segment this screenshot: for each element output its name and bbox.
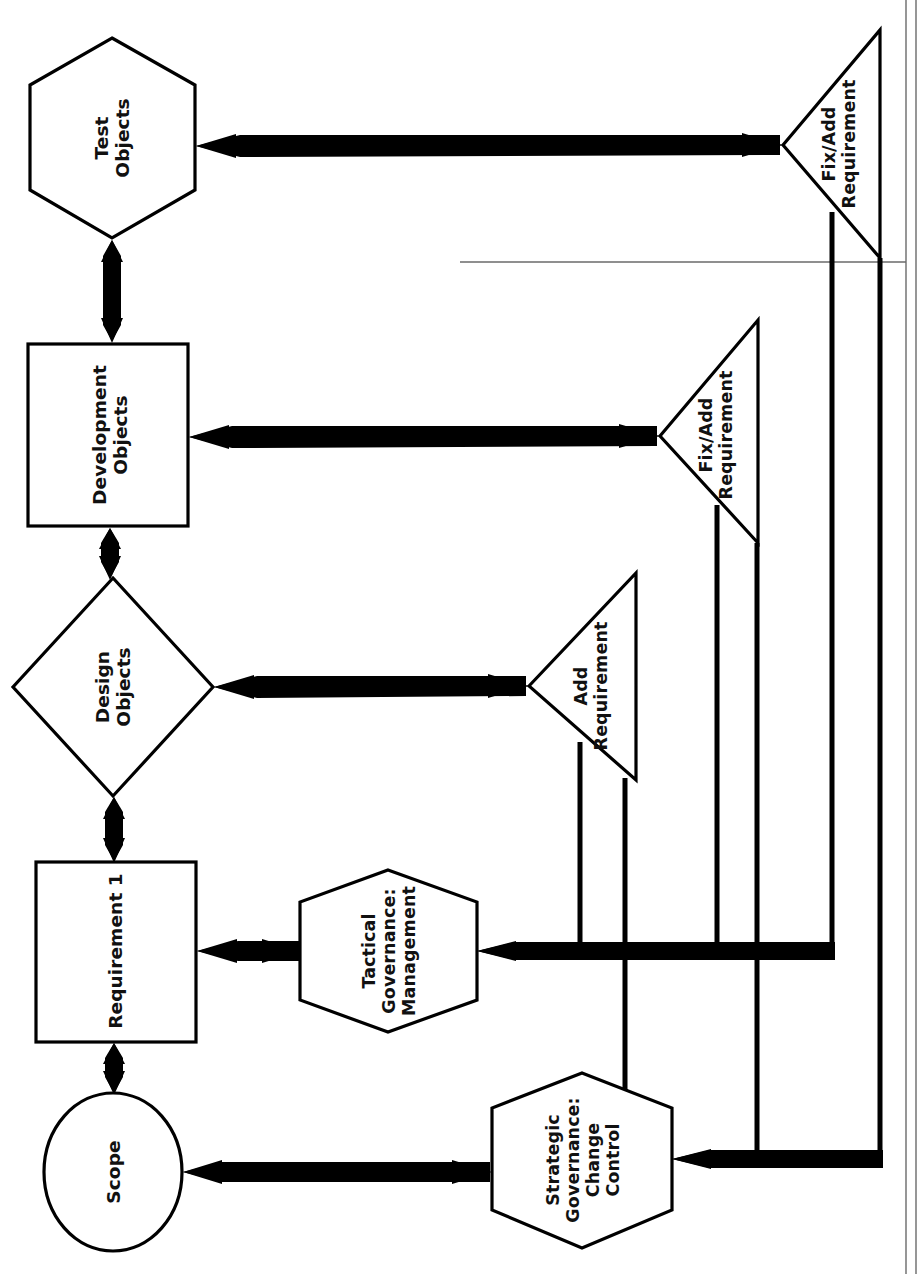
node-strategic-governance-shape xyxy=(492,1073,672,1248)
edge-requirement-1-to-scope xyxy=(103,1043,125,1095)
edge-test-objects-to-fix-add-top xyxy=(196,133,783,158)
node-tactical-governance-shape xyxy=(300,870,477,1032)
edge-scope-to-strategic-governance xyxy=(183,1160,492,1184)
edge-test-objects-to-development-objects xyxy=(101,240,123,343)
diagram-canvas: Test Objects Development Objects Design … xyxy=(0,0,918,1274)
node-scope-shape xyxy=(44,1093,182,1251)
edge-development-objects-to-design-objects xyxy=(99,528,121,580)
node-fix-add-mid-shape xyxy=(660,320,758,543)
flowchart-svg xyxy=(0,0,918,1274)
edge-design-objects-to-add-requirement xyxy=(214,674,529,699)
node-requirement-1-shape xyxy=(36,862,196,1042)
node-test-objects-shape xyxy=(30,38,195,238)
edge-design-objects-to-requirement-1 xyxy=(103,797,125,863)
edge-requirement-1-to-tactical-governance xyxy=(197,939,302,963)
node-design-objects-shape xyxy=(13,578,213,796)
node-development-objects-shape xyxy=(28,344,188,526)
edge-development-objects-to-fix-add-mid xyxy=(189,424,660,449)
